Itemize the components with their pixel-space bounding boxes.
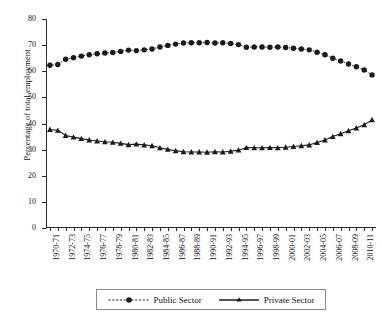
data-point xyxy=(110,50,115,55)
y-tick-label: 80 xyxy=(28,15,36,23)
plot-area: 01020304050607080 1970-711972-731974-751… xyxy=(46,19,376,228)
data-point xyxy=(181,40,186,45)
data-point xyxy=(63,57,68,62)
x-tick-label: 1986-87 xyxy=(179,234,187,261)
y-tick-label: 30 xyxy=(28,146,36,154)
x-tick-label: 2006-07 xyxy=(336,234,344,261)
data-point xyxy=(244,45,249,50)
data-point xyxy=(220,40,225,45)
data-point xyxy=(94,51,99,56)
data-point xyxy=(338,58,343,63)
x-tick-label: 1998-99 xyxy=(273,234,281,261)
data-point xyxy=(322,52,327,57)
data-point xyxy=(267,45,272,50)
data-point xyxy=(55,62,60,67)
legend-label-public-sector: Public Sector xyxy=(154,295,202,305)
data-point xyxy=(236,42,241,47)
x-tick-label: 1982-83 xyxy=(147,234,155,261)
data-point xyxy=(212,40,217,45)
data-point xyxy=(126,47,131,52)
data-point xyxy=(299,46,304,51)
y-tick: 0 xyxy=(42,228,46,229)
x-tick-label: 2010-11 xyxy=(367,234,375,260)
x-tick-label: 2008-09 xyxy=(352,234,360,261)
data-point xyxy=(102,50,107,55)
data-point xyxy=(275,44,280,49)
x-tick-label: 1972-73 xyxy=(69,234,77,261)
public-sector-marker-icon xyxy=(108,295,150,305)
x-tick-label: 1990-91 xyxy=(210,234,218,261)
data-point xyxy=(165,43,170,48)
data-point xyxy=(173,41,178,46)
chart-legend: Public Sector Private Sector xyxy=(96,289,326,310)
x-tick-label: 2004-05 xyxy=(320,234,328,261)
series-layer xyxy=(46,19,376,228)
private-sector-marker-icon xyxy=(218,295,260,305)
x-tick-label: 1976-77 xyxy=(100,234,108,261)
data-point xyxy=(322,137,328,142)
data-point xyxy=(330,55,335,60)
data-point xyxy=(79,53,84,58)
x-tick-label: 1980-81 xyxy=(132,234,140,261)
data-point xyxy=(157,44,162,49)
data-point xyxy=(63,133,69,138)
data-point xyxy=(228,41,233,46)
x-tick-label: 2002-03 xyxy=(304,234,312,261)
data-point xyxy=(314,49,319,54)
data-point xyxy=(87,52,92,57)
data-point xyxy=(353,125,359,130)
data-point xyxy=(307,47,312,52)
data-point xyxy=(354,64,359,69)
y-tick-label: 50 xyxy=(28,93,36,101)
data-point xyxy=(362,67,367,72)
y-tick-label: 60 xyxy=(28,67,36,75)
x-tick-label: 1978-79 xyxy=(116,234,124,261)
data-point xyxy=(142,47,147,52)
chart-container: Percentage of total employment 010203040… xyxy=(0,0,382,315)
y-tick-label: 40 xyxy=(28,120,36,128)
x-tick-label: 1994-95 xyxy=(242,234,250,261)
data-point xyxy=(369,72,374,77)
x-tick-label: 2000-01 xyxy=(289,234,297,261)
y-tick-label: 10 xyxy=(28,198,36,206)
legend-item-public-sector[interactable]: Public Sector xyxy=(108,295,202,305)
data-point xyxy=(197,40,202,45)
data-point xyxy=(189,40,194,45)
x-tick-label: 1984-85 xyxy=(163,234,171,261)
data-point xyxy=(283,45,288,50)
data-point xyxy=(291,46,296,51)
series-line-private-sector xyxy=(50,120,372,152)
series-line-public-sector xyxy=(50,43,372,75)
y-tick-label: 20 xyxy=(28,172,36,180)
x-tick-label: 1974-75 xyxy=(84,234,92,261)
x-tick-label: 1988-89 xyxy=(194,234,202,261)
data-point xyxy=(346,61,351,66)
x-tick-label: 1996-97 xyxy=(257,234,265,261)
y-tick-label: 70 xyxy=(28,41,36,49)
data-point xyxy=(71,55,76,60)
legend-label-private-sector: Private Sector xyxy=(264,295,315,305)
data-point xyxy=(134,48,139,53)
data-point xyxy=(259,44,264,49)
x-tick-label: 1970-71 xyxy=(53,234,61,261)
data-point xyxy=(361,122,367,127)
legend-item-private-sector[interactable]: Private Sector xyxy=(218,295,315,305)
data-point xyxy=(149,46,154,51)
data-point xyxy=(369,117,375,122)
y-tick-label: 0 xyxy=(32,224,36,232)
data-point xyxy=(118,49,123,54)
data-point xyxy=(47,63,52,68)
x-tick-label: 1992-93 xyxy=(226,234,234,261)
data-point xyxy=(252,44,257,49)
data-point xyxy=(204,40,209,45)
